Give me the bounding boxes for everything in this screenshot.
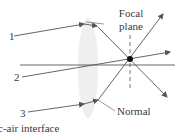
interface-label: c-air interface	[0, 123, 59, 134]
normal-label: Normal	[117, 106, 151, 117]
ray-3-label: 3	[20, 108, 26, 119]
ray-1-label: 1	[9, 31, 15, 42]
ray-2-label: 2	[14, 72, 20, 83]
focal-point	[127, 56, 133, 62]
focal-plane-label-2: plane	[116, 21, 146, 32]
focal-plane-label-1: Focal	[116, 8, 146, 19]
